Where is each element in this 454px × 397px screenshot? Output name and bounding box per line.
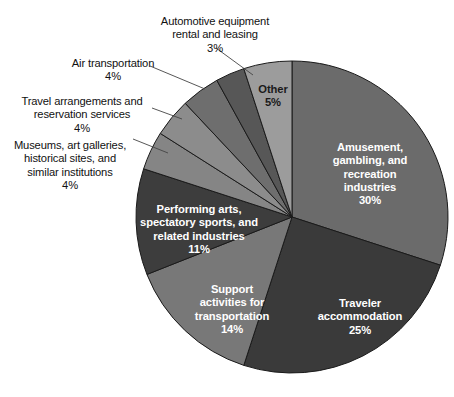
label-other: Other 5% bbox=[239, 70, 307, 123]
label-museums-percent: 4% bbox=[0, 179, 140, 192]
pie-chart: Automotive equipment rental and leasing … bbox=[0, 0, 454, 397]
label-traveler-percent: 25% bbox=[305, 324, 415, 337]
label-automotive-text: Automotive equipment rental and leasing bbox=[161, 15, 269, 40]
label-museums-text: Museums, art galleries, historical sites… bbox=[14, 139, 126, 177]
label-amusement-gambling-recreation: Amusement, gambling, and recreation indu… bbox=[318, 128, 422, 220]
label-amusement-text: Amusement, gambling, and recreation indu… bbox=[333, 141, 408, 193]
label-other-text: Other bbox=[258, 83, 287, 95]
label-traveler-text: Traveler accommodation bbox=[318, 297, 403, 322]
label-amusement-percent: 30% bbox=[318, 194, 422, 207]
label-air-text: Air transportation bbox=[72, 57, 155, 69]
label-museums-art-galleries: Museums, art galleries, historical sites… bbox=[0, 126, 140, 205]
label-other-percent: 5% bbox=[239, 96, 307, 109]
label-support-activities-transportation: Support activities for transportation 14… bbox=[177, 270, 287, 349]
label-traveler-accommodation: Traveler accommodation 25% bbox=[305, 284, 415, 350]
label-performing-percent: 11% bbox=[123, 243, 275, 256]
label-performing-arts-spectatory-sports: Performing arts, spectatory sports, and … bbox=[123, 190, 275, 269]
label-support-text: Support activities for transportation bbox=[195, 283, 269, 321]
label-support-percent: 14% bbox=[177, 323, 287, 336]
label-travel-text: Travel arrangements and reservation serv… bbox=[21, 95, 142, 120]
label-performing-text: Performing arts, spectatory sports, and … bbox=[140, 203, 258, 241]
